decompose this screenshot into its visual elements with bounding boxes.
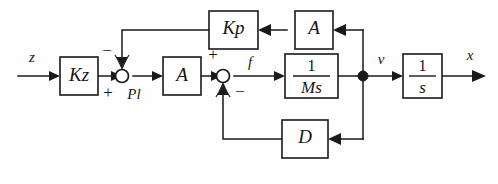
sign-plus-sum2: +: [208, 45, 218, 64]
wire-d-to-sum2: [223, 95, 282, 139]
block-a-feedback-label: A: [306, 17, 320, 38]
control-block-diagram: Kz A 1 Ms 1 s Kp A D z f v: [0, 0, 498, 184]
arrow-into-kz: [49, 71, 60, 81]
summing-junction-pl: [116, 70, 129, 83]
label-junction-pl: Pl: [126, 86, 140, 102]
diagram-canvas: Kz A 1 Ms 1 s Kp A D z f v: [0, 0, 498, 184]
block-d-label: D: [297, 126, 312, 147]
sign-minus-sum2: −: [235, 82, 245, 101]
block-kp-label: Kp: [221, 17, 244, 38]
arrow-output-x: [472, 70, 486, 82]
block-s-numerator: 1: [419, 57, 427, 74]
block-a-forward-label: A: [174, 64, 188, 85]
block-ms-numerator: 1: [308, 57, 316, 74]
wire-kp-to-sum1: [122, 30, 209, 57]
block-ms-denominator: Ms: [300, 78, 322, 97]
arrow-into-a1: [152, 71, 163, 81]
signal-tap-node-v: [358, 71, 368, 81]
arrow-into-a2: [333, 24, 346, 36]
sign-minus-sum1: −: [102, 41, 112, 60]
arrow-into-d: [328, 133, 341, 145]
arrow-into-s: [392, 71, 403, 81]
label-signal-v: v: [378, 51, 385, 67]
label-signal-z: z: [28, 49, 35, 65]
label-signal-x: x: [466, 47, 474, 63]
block-s-denominator: s: [419, 78, 426, 97]
label-signal-f: f: [248, 54, 254, 70]
block-kz-label: Kz: [68, 64, 90, 85]
summing-junction-force: [217, 70, 230, 83]
arrow-into-ms: [274, 71, 285, 81]
arrow-into-kp: [258, 24, 271, 36]
sign-plus-sum1: +: [103, 83, 113, 102]
